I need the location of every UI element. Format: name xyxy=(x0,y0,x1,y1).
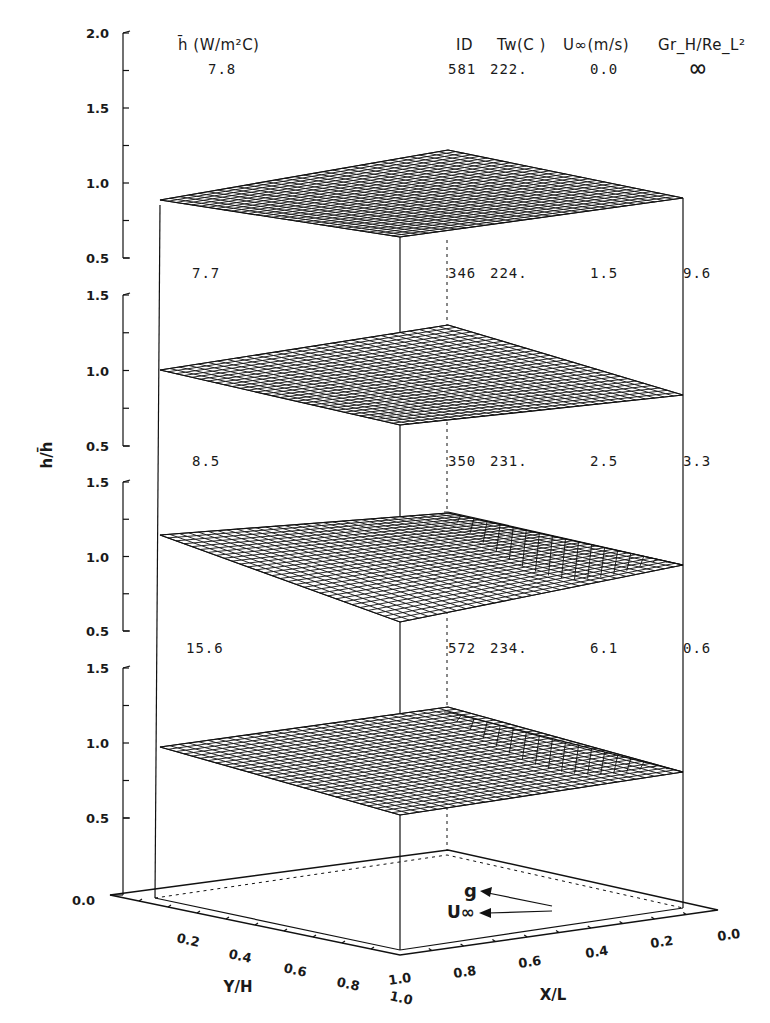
hbar-value: 7.8 xyxy=(208,61,236,77)
base-inner-front xyxy=(155,898,683,950)
y-tick-mark xyxy=(197,911,200,913)
u-inf-label: U∞ xyxy=(447,902,475,922)
gravity-arrow-line xyxy=(488,893,552,906)
gravity-arrow-head xyxy=(480,887,492,897)
u-inf-value: 6.1 xyxy=(590,640,618,656)
base-layer: 0.20.40.60.81.01.00.80.60.40.20.0 xyxy=(110,818,741,1008)
y-tick-mark xyxy=(371,947,374,949)
tw-header: Tw(C ) xyxy=(496,36,546,54)
y-tick-mark xyxy=(139,899,142,901)
y-tick-mark xyxy=(342,941,345,943)
tw-value: 231. xyxy=(490,453,528,469)
z-tick-label: 1.5 xyxy=(86,101,109,116)
id-value: 350 xyxy=(448,453,476,469)
z-tick-label: 1.0 xyxy=(86,176,109,191)
y-axis-label: Y/H xyxy=(223,978,253,996)
z-tick-label: 2.0 xyxy=(86,26,109,41)
base-inner-back xyxy=(155,855,683,908)
u-inf-arrow-head xyxy=(479,908,491,918)
base-z-tick: 0.0 xyxy=(72,893,95,908)
header: h̄ (W/m²C) ID Tw(C ) U∞(m/s) Gr_H/Re_L² xyxy=(178,35,746,55)
x-tick-label: 0.8 xyxy=(452,963,477,981)
y-tick-label: 0.8 xyxy=(335,974,361,993)
hbar-header: h̄ (W/m²C) xyxy=(178,35,260,54)
z-axis-label: h/h̄ xyxy=(36,442,56,469)
tw-value: 224. xyxy=(490,265,528,281)
z-tick-label: 0.5 xyxy=(86,251,109,266)
z-tick-label: 0.5 xyxy=(86,811,109,826)
id-value: 346 xyxy=(448,265,476,281)
gr-re-value: 3.3 xyxy=(683,453,711,469)
frame-left-vertical xyxy=(155,205,160,898)
id-value: 572 xyxy=(448,640,476,656)
z-tick-label: 0.5 xyxy=(86,624,109,639)
gravity-label: g xyxy=(464,880,477,901)
surface-panel-2 xyxy=(160,325,683,425)
surface-plot-figure: h̄ (W/m²C) ID Tw(C ) U∞(m/s) Gr_H/Re_L² … xyxy=(0,0,770,1023)
z-tick-label: 1.0 xyxy=(86,736,109,751)
y-tick-mark xyxy=(313,935,316,937)
surface-panel-4 xyxy=(160,707,683,815)
y-tick-mark xyxy=(284,929,287,931)
tw-value: 222. xyxy=(490,61,528,77)
x-axis-label: X/L xyxy=(540,986,567,1004)
z-tick-label: 1.0 xyxy=(86,364,109,379)
x-tick-label: 0.2 xyxy=(649,933,674,951)
surface-panel-3 xyxy=(160,512,683,622)
u-inf-value: 2.5 xyxy=(590,453,618,469)
z-tick-label: 1.5 xyxy=(86,475,109,490)
x-tick-label: 1.0 xyxy=(387,970,412,988)
x-tick-label: 0.0 xyxy=(716,926,741,944)
hbar-value: 8.5 xyxy=(192,453,220,469)
gr-re-value: ∞ xyxy=(690,53,707,83)
y-tick-label: 0.4 xyxy=(227,946,253,965)
base-outer xyxy=(110,850,718,955)
y-tick-mark xyxy=(255,923,258,925)
id-value: 581 xyxy=(448,61,476,77)
id-header: ID xyxy=(456,36,473,54)
z-tick-label: 1.5 xyxy=(86,661,109,676)
axes-layer: 2.01.51.00.51.51.00.51.51.00.51.51.00.5 xyxy=(86,26,130,826)
gr-re-value: 0.6 xyxy=(683,640,711,656)
hbar-value: 15.6 xyxy=(186,640,224,656)
y-tick-label: 0.6 xyxy=(282,960,308,979)
z-tick-label: 1.0 xyxy=(86,550,109,565)
u-inf-header: U∞(m/s) xyxy=(563,36,629,54)
gr-re-value: 9.6 xyxy=(683,265,711,281)
surface-panel-1 xyxy=(160,150,683,237)
y-tick-mark xyxy=(226,917,229,919)
flow-legend: g U∞ xyxy=(447,880,552,922)
surface-layer xyxy=(160,150,683,815)
z-tick-label: 1.5 xyxy=(86,288,109,303)
u-inf-arrow-line xyxy=(488,911,552,913)
u-inf-value: 1.5 xyxy=(590,265,618,281)
tw-value: 234. xyxy=(490,640,528,656)
hbar-value: 7.7 xyxy=(192,265,220,281)
x-tick-label: 0.6 xyxy=(517,953,542,971)
z-tick-label: 0.5 xyxy=(86,439,109,454)
x-tick-label: 0.4 xyxy=(584,943,609,961)
y-tick-label: 1.0 xyxy=(388,988,414,1007)
u-inf-value: 0.0 xyxy=(590,61,618,77)
y-tick-mark xyxy=(168,905,171,907)
y-tick-label: 0.2 xyxy=(175,930,201,949)
